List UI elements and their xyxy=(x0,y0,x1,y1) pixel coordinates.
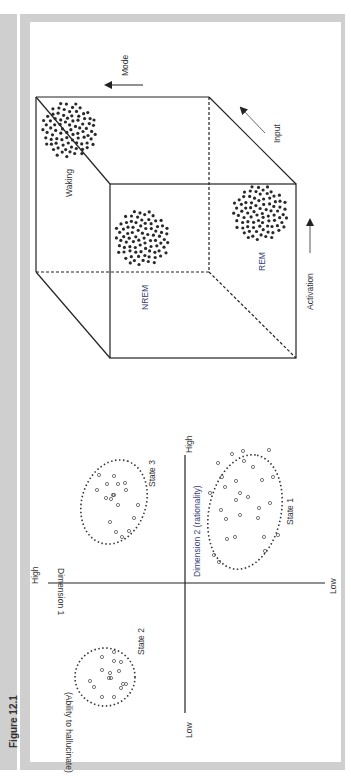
dim2-low-label: Low xyxy=(184,722,194,738)
dim2-title: Dimension 2 (rationality) xyxy=(192,485,202,577)
dim1-title: Dimension 1 xyxy=(56,568,66,616)
dim2-high-label: High xyxy=(184,435,194,453)
rem-label: REM xyxy=(257,252,267,271)
rem-cluster xyxy=(232,185,288,241)
state-1-boundary xyxy=(198,448,293,576)
figure-svg: Waking NREM REM Mode Input Activation Hi… xyxy=(0,0,351,783)
dim1-high-label: High xyxy=(30,566,40,584)
nrem-cluster xyxy=(115,210,169,266)
waking-label: Waking xyxy=(64,169,74,197)
nrem-label: NREM xyxy=(140,285,150,310)
activation-label: Activation xyxy=(305,273,315,310)
state-3-label: State 3 xyxy=(147,460,157,487)
state-3-points xyxy=(95,473,139,538)
dim1-low-label: Low xyxy=(328,578,338,594)
state-1-label: State 1 xyxy=(285,498,295,525)
waking-cluster xyxy=(41,102,96,158)
state-2-points xyxy=(88,650,127,698)
state-2-boundary xyxy=(75,648,135,706)
input-label: Input xyxy=(272,123,282,143)
state-2-label: State 2 xyxy=(136,628,146,655)
mode-label: Mode xyxy=(120,54,130,76)
dim1-subtitle: (Ability to hallucinate) xyxy=(64,692,74,773)
input-arrow-icon xyxy=(241,108,265,133)
state-3-boundary xyxy=(70,451,157,553)
